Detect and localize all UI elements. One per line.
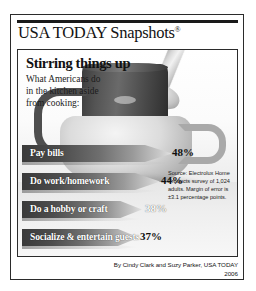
bar-category-label: Pay bills — [30, 147, 64, 158]
bar-category-label: Do a hobby or craft — [30, 203, 107, 214]
bar-row: Socialize & entertain guests 37% — [18, 229, 238, 251]
registered-trademark-icon: ® — [175, 25, 181, 34]
brand-title: USA TODAY Snapshots® — [18, 23, 181, 43]
bar-row: Do a hobby or craft 38% — [18, 201, 238, 223]
byline-year: 2006 — [17, 270, 238, 277]
chart-subtitle-line-1: What Americans do — [26, 74, 134, 86]
chart-title: Stirring things up — [26, 56, 134, 71]
bar-value-label: 48% — [172, 146, 194, 158]
chart-panel: Stirring things up What Americans do in … — [17, 49, 238, 257]
byline: By Cindy Clark and Suzy Parker, USA TODA… — [17, 261, 238, 268]
chart-subtitle: What Americans do in the kitchen aside f… — [26, 74, 134, 109]
snapshot-graphic: USA TODAY Snapshots® Stirring things up … — [0, 0, 256, 291]
headline-block: Stirring things up What Americans do in … — [26, 56, 134, 109]
source-note: Source: Electrolux Home Products survey … — [168, 170, 230, 202]
bar-category-label: Socialize & entertain guests — [30, 231, 139, 242]
chart-subtitle-line-2: in the kitchen aside — [26, 86, 134, 98]
header: USA TODAY Snapshots® — [17, 20, 238, 45]
bar-category-label: Do work/homework — [30, 175, 109, 186]
bar-row: Pay bills 48% — [18, 145, 238, 167]
bar-value-label: 38% — [145, 202, 167, 214]
bar-value-label: 37% — [140, 230, 162, 242]
brand-title-text: USA TODAY Snapshots — [18, 23, 175, 42]
chart-subtitle-line-3: from cooking: — [26, 98, 134, 110]
